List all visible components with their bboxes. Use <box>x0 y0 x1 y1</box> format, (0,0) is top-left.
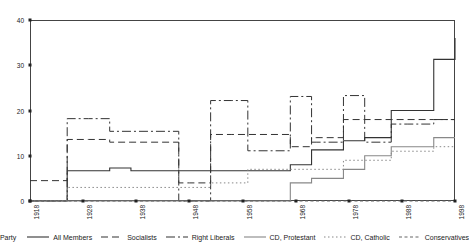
legend-swatch <box>101 233 123 241</box>
legend-swatch <box>244 233 266 241</box>
y-axis-tick-mark <box>29 109 32 112</box>
x-axis-tick-label: 1978 <box>352 205 359 219</box>
y-axis-tick-label: 40 <box>0 17 24 24</box>
y-axis-tick-label: 0 <box>0 198 24 205</box>
x-axis-tick-label: 1958 <box>246 205 253 219</box>
legend-swatch <box>27 233 49 241</box>
x-axis-tick-mark <box>82 200 85 203</box>
legend-entry[interactable]: Socialists <box>101 233 157 241</box>
legend-label: Socialists <box>127 234 157 241</box>
x-axis-tick-label: 1998 <box>458 205 465 219</box>
legend-entry[interactable]: CD, Protestant <box>244 233 316 241</box>
legend-entry[interactable]: All Members <box>27 233 92 241</box>
legend-label: Right Liberals <box>192 234 235 241</box>
x-axis-tick-mark <box>347 200 350 203</box>
legend-swatch <box>166 233 188 241</box>
legend-title: Party <box>0 234 16 241</box>
x-axis-tick-mark <box>135 200 138 203</box>
x-axis-tick-mark <box>294 200 297 203</box>
x-axis-tick-label: 1918 <box>33 205 40 219</box>
y-axis-tick-mark <box>29 64 32 67</box>
chart-series-lines <box>30 20 455 201</box>
legend-label: Conservatives <box>425 234 469 241</box>
x-axis-tick-label: 1938 <box>139 205 146 219</box>
x-axis-tick-mark <box>188 200 191 203</box>
x-axis-tick-mark <box>29 200 32 203</box>
x-axis-tick-label: 1968 <box>299 205 306 219</box>
y-axis-tick-label: 30 <box>0 62 24 69</box>
y-axis-tick-mark <box>29 19 32 22</box>
x-axis-tick-mark <box>454 200 457 203</box>
legend-label: CD, Catholic <box>350 234 389 241</box>
y-axis-tick-label: 20 <box>0 107 24 114</box>
x-axis-tick-mark <box>400 200 403 203</box>
y-axis-tick-label: 10 <box>0 152 24 159</box>
series-line <box>30 138 455 201</box>
x-axis-tick-label: 1928 <box>86 205 93 219</box>
legend-label: CD, Protestant <box>270 234 316 241</box>
legend-label: All Members <box>53 234 92 241</box>
plot-area <box>30 20 455 201</box>
legend-swatch <box>324 233 346 241</box>
y-axis-tick-mark <box>29 154 32 157</box>
chart-root: 010203040 191819281938194819581968197819… <box>0 0 469 251</box>
x-axis-tick-label: 1988 <box>405 205 412 219</box>
legend-swatch <box>399 233 421 241</box>
x-axis-tick-label: 1948 <box>192 205 199 219</box>
x-axis-tick-mark <box>241 200 244 203</box>
legend-entry[interactable]: Right Liberals <box>166 233 235 241</box>
chart-legend: Party All MembersSocialistsRight Liberal… <box>0 226 469 248</box>
legend-entry[interactable]: Conservatives <box>399 233 469 241</box>
legend-entry[interactable]: CD, Catholic <box>324 233 389 241</box>
